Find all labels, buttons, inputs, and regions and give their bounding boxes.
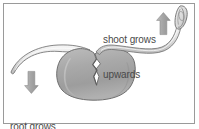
shoot-label-line2: upwards: [103, 69, 156, 81]
up-arrow: [157, 13, 171, 35]
shoot-label-line1: shoot grows: [103, 34, 156, 46]
root-label-line1: root grows: [10, 121, 60, 129]
down-arrow: [25, 71, 39, 93]
root-label: root grows downwards: [10, 98, 60, 129]
shoot-label: shoot grows upwards: [103, 11, 156, 103]
shoot-tip-bud: [175, 6, 187, 29]
germination-diagram: shoot grows upwards root grows downwards: [0, 0, 199, 129]
